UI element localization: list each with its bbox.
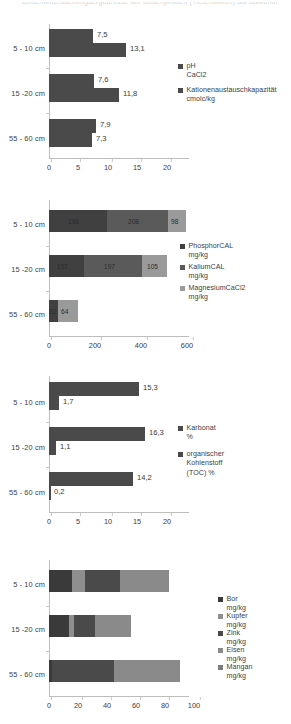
x-tick: 600 [181, 341, 193, 350]
bar-kak-3[interactable] [49, 133, 92, 147]
legend-swatch-icon [178, 426, 183, 431]
segment-value: 208 [128, 218, 139, 225]
x-tick: 5 [76, 517, 80, 526]
legend-item-kak[interactable]: Kationenaustauschkapazität cmolc/kg [178, 86, 277, 105]
bar-kak-1[interactable] [49, 43, 126, 57]
category-label: 55 - 60 cm [0, 670, 45, 679]
segment-value: 98 [171, 218, 178, 225]
category-label: 55 - 60 cm [0, 488, 45, 497]
segment-bor[interactable] [49, 615, 69, 637]
legend-item-magnesium[interactable]: MagnesiumCaCl2 mg/kg [180, 284, 246, 303]
category-label: 55 - 60 cm [0, 134, 45, 143]
legend-label: Zink mg/kg [227, 629, 247, 648]
legend-swatch-icon [178, 452, 183, 457]
x-tick: 15 [133, 163, 141, 172]
chart-ph-kak: 5 - 10 cm 15 -20 cm 55 - 60 cm 7,5 13,1 … [0, 10, 291, 180]
x-axis-line [49, 696, 189, 697]
bar-toc-2[interactable] [49, 441, 56, 455]
legend-swatch-icon [180, 265, 185, 270]
legend-swatch-icon [218, 597, 223, 602]
bar-ph-2[interactable] [49, 74, 94, 88]
x-tick: 40 [103, 701, 111, 710]
legend-item-kupfer[interactable]: Kupfer mg/kg [218, 612, 248, 631]
segment-zink[interactable] [52, 660, 114, 682]
legend-label: organischer Kohlenstoff (TOC) % [187, 450, 225, 478]
legend-item-eisen[interactable]: Eisen mg/kg [218, 646, 246, 665]
bar-toc-3[interactable] [49, 486, 51, 500]
category-label: 5 - 10 cm [0, 580, 45, 589]
legend-item-zink[interactable]: Zink mg/kg [218, 629, 246, 648]
stacked-bar-2[interactable] [49, 615, 131, 637]
x-tick: 200 [89, 341, 101, 350]
x-tick: 100 [188, 701, 200, 710]
segment-eisen[interactable] [114, 660, 180, 682]
segment-magnesium[interactable]: 98 [168, 210, 186, 232]
bar-karbonat-2[interactable] [49, 427, 145, 441]
bar-karbonat-3[interactable] [49, 472, 133, 486]
bar-toc-1[interactable] [49, 396, 59, 410]
legend-label: Bor mg/kg [227, 595, 247, 614]
bar-value: 7,5 [97, 30, 108, 39]
legend-swatch-icon [178, 88, 183, 93]
legend-item-ph[interactable]: pH CaCl2 [178, 62, 206, 81]
segment-eisen[interactable] [120, 570, 169, 592]
segment-zink[interactable] [85, 570, 120, 592]
legend-swatch-icon [178, 64, 183, 69]
x-axis-line [49, 158, 189, 159]
category-label: 5 - 10 cm [0, 398, 45, 407]
bar-kak-2[interactable] [49, 88, 119, 102]
legend-item-toc[interactable]: organischer Kohlenstoff (TOC) % [178, 450, 224, 478]
bar-karbonat-1[interactable] [49, 382, 139, 396]
category-label: 15 -20 cm [0, 443, 45, 452]
stacked-bar-1[interactable] [49, 570, 169, 592]
bar-value: 0,2 [54, 487, 65, 496]
x-tick: 20 [74, 701, 82, 710]
bar-ph-3[interactable] [49, 119, 96, 133]
x-tick: 5 [76, 163, 80, 172]
x-tick: 10 [104, 517, 112, 526]
segment-kupfer[interactable] [72, 570, 85, 592]
segment-value: 197 [104, 263, 115, 270]
bar-value: 7,3 [96, 134, 107, 143]
segment-phosphor[interactable]: 197 [49, 255, 84, 277]
stacked-bar-3[interactable] [49, 660, 180, 682]
chart-karbonat-toc: 5 - 10 cm 15 -20 cm 55 - 60 cm 15,3 1,7 … [0, 362, 291, 534]
segment-magnesium[interactable]: 105 [142, 255, 167, 277]
segment-kalium[interactable]: 197 [84, 255, 142, 277]
stacked-bar-2[interactable]: 197 197 105 [49, 255, 167, 277]
legend-item-mangan[interactable]: Mangan mg/kg [218, 663, 252, 682]
bar-value: 11,8 [123, 89, 137, 98]
bar-value: 7,6 [98, 75, 109, 84]
category-label: 15 -20 cm [0, 625, 45, 634]
segment-kalium[interactable]: 208 [107, 210, 168, 232]
segment-phosphor[interactable]: 198 [49, 210, 107, 232]
legend-item-karbonat[interactable]: Karbonat % [178, 424, 216, 443]
segment-value: 198 [68, 218, 79, 225]
x-tick: 0 [47, 517, 51, 526]
x-axis-line [49, 512, 189, 513]
cropped-header-text: Bodenuntersuchungsergebnisse der Bodenpr… [22, 2, 277, 9]
x-tick: 0 [47, 341, 51, 350]
stacked-bar-1[interactable]: 198 208 98 [49, 210, 186, 232]
legend-label: KaliumCAL mg/kg [189, 263, 225, 282]
chart-naehrstoffe: 5 - 10 cm 15 -20 cm 55 - 60 cm 198 208 9… [0, 186, 291, 356]
legend-swatch-icon [180, 244, 185, 249]
segment-bor[interactable] [49, 570, 72, 592]
segment-zink[interactable] [74, 615, 95, 637]
segment-value: 105 [147, 263, 158, 270]
legend-item-kalium[interactable]: KaliumCAL mg/kg [180, 263, 224, 282]
stacked-bar-3[interactable]: 22 64 [49, 300, 78, 322]
x-axis-ticks: 0 5 10 15 20 [0, 517, 291, 533]
segment-value: 22 [49, 308, 56, 315]
x-axis-line [49, 336, 189, 337]
bar-ph-1[interactable] [49, 29, 93, 43]
bar-value: 15,3 [143, 383, 158, 392]
chart-spurenelemente: 5 - 10 cm 15 -20 cm 55 - 60 cm [0, 546, 291, 724]
legend-item-bor[interactable]: Bor mg/kg [218, 595, 246, 614]
segment-phosphor[interactable]: 22 [49, 300, 58, 322]
segment-eisen[interactable] [95, 615, 131, 637]
legend-swatch-icon [218, 614, 223, 619]
segment-magnesium[interactable]: 64 [58, 300, 78, 322]
category-label: 15 -20 cm [0, 265, 45, 274]
legend-item-phosphor[interactable]: PhosphorCAL mg/kg [180, 242, 233, 261]
